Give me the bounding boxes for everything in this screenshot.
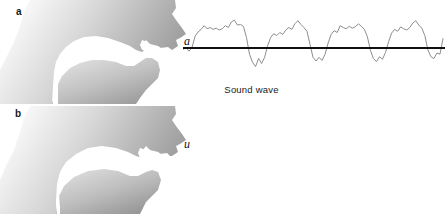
waveform-a	[183, 4, 445, 78]
velum-b	[138, 148, 148, 159]
panel-vowel-u	[0, 104, 445, 214]
waveform-a-trace	[183, 20, 443, 67]
vowel-label-a: a	[184, 34, 190, 49]
waveform-a-svg	[183, 4, 445, 78]
sagittal-head-svg-b	[0, 104, 200, 214]
waveform-u	[183, 212, 445, 214]
caption-text: Sound wave	[224, 84, 278, 95]
figure-caption: Sound wave	[0, 84, 445, 95]
waveform-u-svg	[183, 212, 445, 214]
panel-label-b: b	[15, 108, 21, 119]
panel-label-a: a	[16, 6, 22, 17]
tongue-jaw-mass-b	[56, 169, 161, 214]
vowel-label-u: u	[184, 137, 190, 152]
phonetics-vowel-figure: a	[0, 0, 445, 214]
head-diagram-b	[0, 104, 200, 214]
